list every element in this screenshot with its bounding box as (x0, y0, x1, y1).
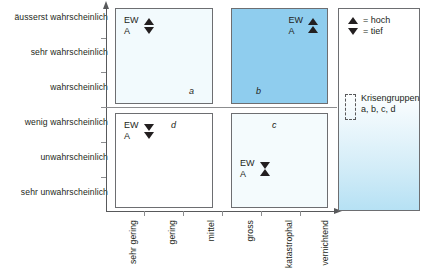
quadrant-c-marker-labels: EW A (240, 158, 255, 180)
x-axis-label-sehr-gering: sehr gering (128, 220, 138, 264)
y-axis-tick (101, 38, 106, 39)
triangle-up-icon (347, 17, 358, 24)
y-axis-label-wenig-wahrscheinlich: wenig wahrscheinlich (0, 117, 108, 127)
quadrant-c-triangles (260, 161, 270, 177)
quadrant-d-ew-label: EW (124, 120, 139, 131)
quadrant-b-a-label: A (289, 26, 304, 37)
y-axis-tick (101, 142, 106, 143)
quadrant-b-triangles (308, 18, 318, 34)
quadrant-c[interactable]: c EW A (231, 113, 328, 208)
y-axis-label-wahrscheinlich: wahrscheinlich (0, 82, 108, 92)
y-axis-label-sehr-wahrscheinlich: sehr wahrscheinlich (0, 47, 108, 57)
matrix-mid-divider (106, 107, 337, 108)
x-axis-label-mittel: mittel (206, 220, 216, 241)
dashed-box-icon (345, 94, 356, 120)
risk-matrix-chart: äusserst wahrscheinlich sehr wahrscheinl… (0, 0, 423, 278)
quadrant-c-letter: c (272, 120, 277, 130)
triangle-up-icon (260, 169, 270, 176)
legend-panel: = hoch = tief Krisengruppen a, b, c, d (338, 8, 420, 211)
quadrant-a-triangles (144, 18, 154, 34)
x-axis-label-katastrophal: katastrophal (284, 220, 294, 268)
legend-item-krisengruppen: Krisengruppen a, b, c, d (345, 93, 420, 120)
quadrant-b-marker-labels: EW A (289, 15, 304, 37)
y-axis-tick (101, 177, 106, 178)
quadrant-d-markers: EW A (124, 120, 154, 142)
y-axis-label-unwahrscheinlich: unwahrscheinlich (0, 152, 108, 162)
y-axis-label-sehr-unwahrscheinlich: sehr unwahrscheinlich (0, 187, 108, 197)
legend-tief-label: = tief (363, 26, 383, 36)
quadrant-c-ew-label: EW (240, 158, 255, 169)
krisengruppen-title: Krisengruppen (361, 93, 420, 104)
quadrant-b-letter: b (256, 86, 261, 96)
quadrant-d-letter: d (171, 120, 176, 130)
x-axis-tick (222, 211, 223, 216)
legend-hoch-label: = hoch (363, 15, 390, 25)
triangle-up-icon (308, 26, 318, 33)
x-axis-tick (261, 211, 262, 216)
y-axis-label-aeusserst-wahrscheinlich: äusserst wahrscheinlich (0, 12, 108, 22)
quadrant-a-markers: EW A (124, 15, 154, 37)
quadrant-a-marker-labels: EW A (124, 15, 139, 37)
triangle-down-icon (144, 132, 154, 139)
x-axis-label-gross: gross (245, 220, 255, 242)
x-axis-label-vernichtend: vernichtend (320, 220, 330, 266)
quadrant-a-ew-label: EW (124, 15, 139, 26)
quadrant-c-markers: EW A (240, 158, 270, 180)
triangle-down-icon (260, 162, 270, 169)
y-axis-arrow-icon (103, 1, 109, 9)
legend-item-tief: = tief (347, 26, 383, 36)
legend-item-hoch: = hoch (347, 15, 390, 25)
quadrant-d[interactable]: EW A d (115, 113, 213, 208)
x-axis-tick (144, 211, 145, 216)
quadrant-a-a-label: A (124, 26, 139, 37)
quadrant-a[interactable]: EW A a (115, 8, 213, 104)
quadrant-a-letter: a (189, 86, 194, 96)
krisengruppen-items: a, b, c, d (361, 104, 420, 115)
quadrant-d-triangles (144, 123, 154, 139)
quadrant-b-ew-label: EW (289, 15, 304, 26)
triangle-up-icon (144, 18, 154, 25)
triangle-down-icon (347, 28, 358, 35)
quadrant-b-markers: EW A (289, 15, 319, 37)
y-axis-tick (101, 72, 106, 73)
y-axis-line (106, 8, 107, 211)
triangle-up-icon (308, 18, 318, 25)
quadrant-c-a-label: A (240, 169, 255, 180)
quadrant-d-a-label: A (124, 131, 139, 142)
quadrant-b[interactable]: EW A b (231, 8, 328, 104)
x-axis-label-gering: gering (167, 220, 177, 245)
krisengruppen-texts: Krisengruppen a, b, c, d (361, 93, 420, 115)
triangle-down-icon (144, 124, 154, 131)
x-axis-tick (183, 211, 184, 216)
x-axis-tick (300, 211, 301, 216)
triangle-down-icon (144, 27, 154, 34)
quadrant-d-marker-labels: EW A (124, 120, 139, 142)
